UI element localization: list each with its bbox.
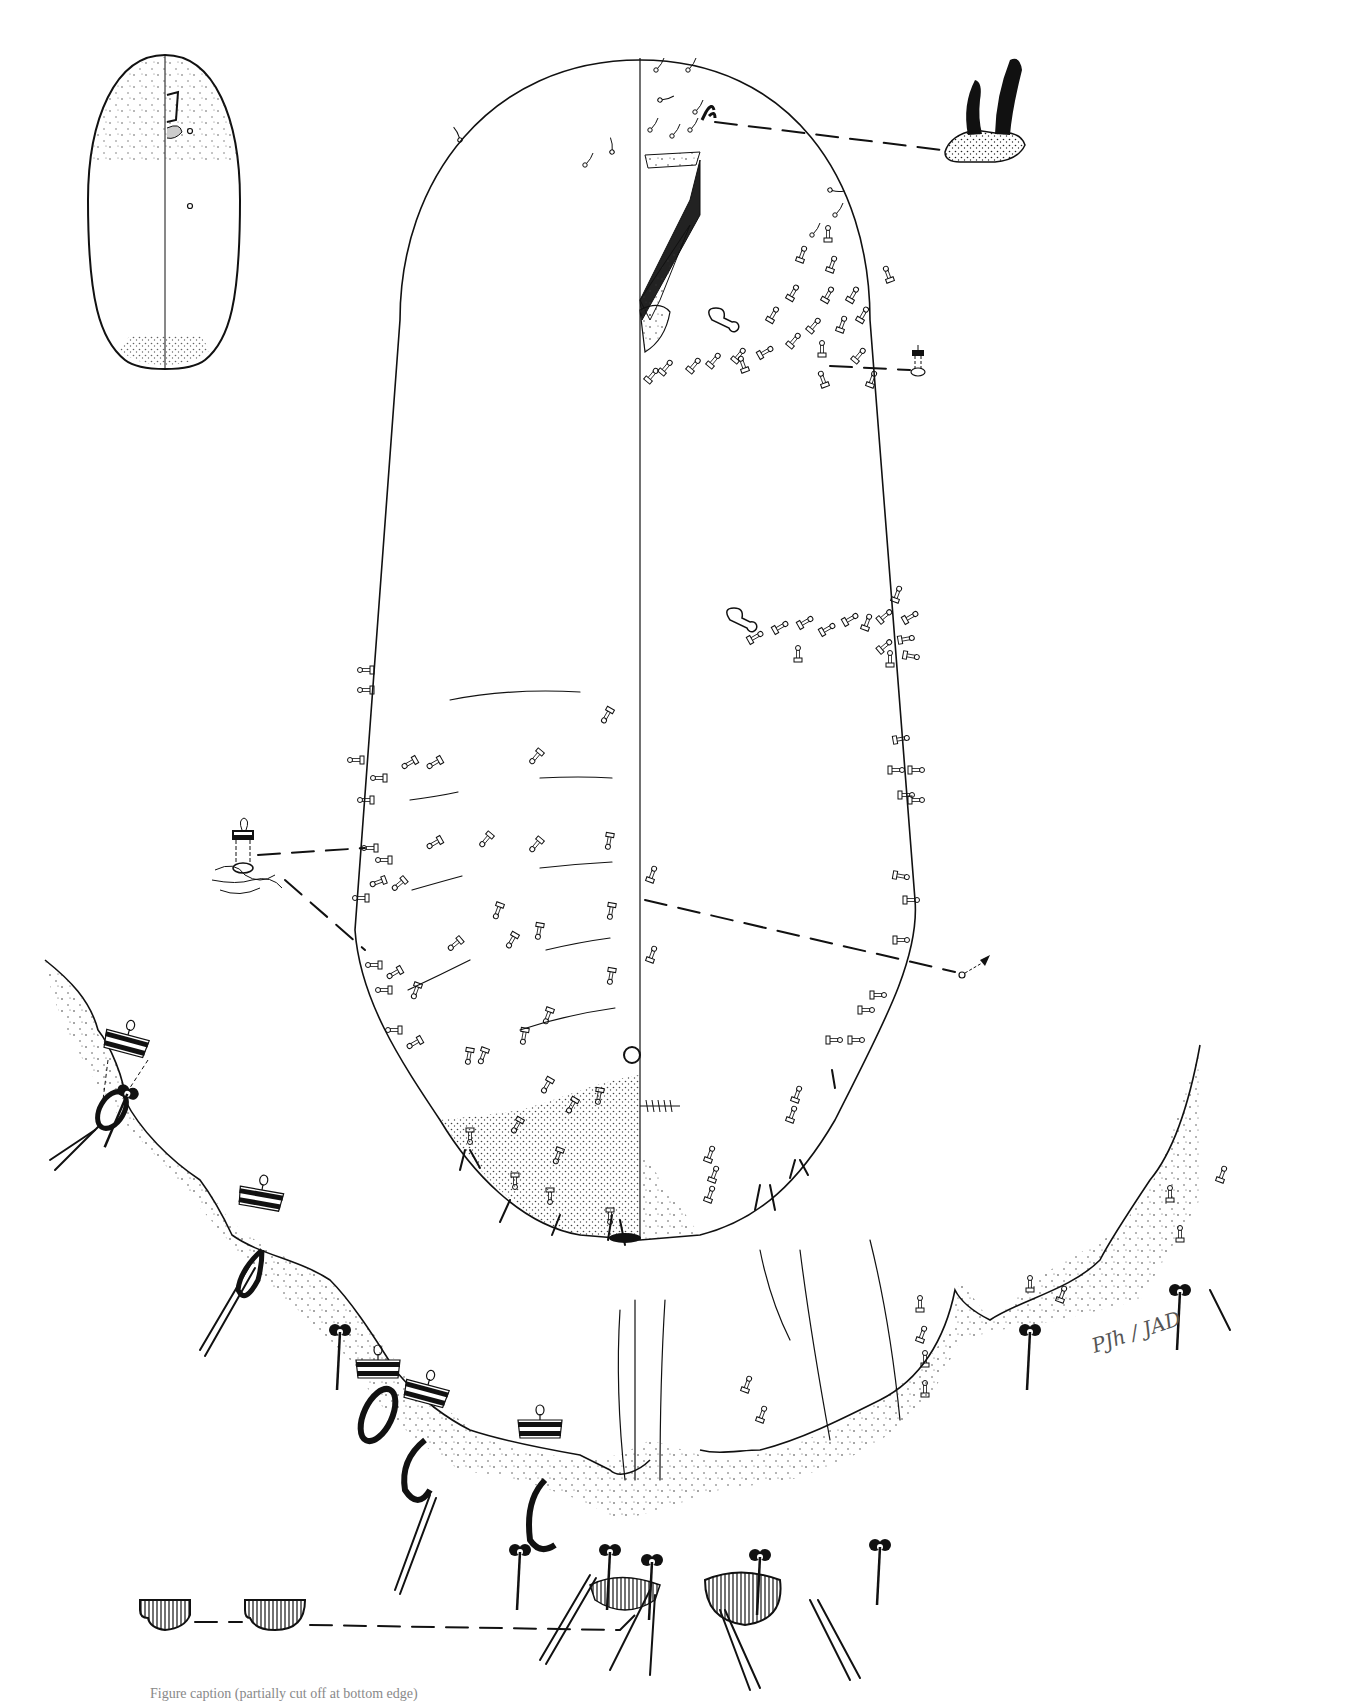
detail-tubular-duct — [212, 818, 365, 950]
habitus-inset — [88, 55, 240, 370]
figure-caption: Figure caption (partially cut off at bot… — [150, 1686, 418, 1702]
main-body — [355, 58, 915, 1245]
